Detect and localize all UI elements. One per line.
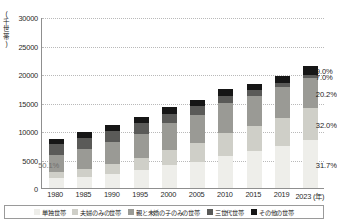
segment-percentage-label: 50.1% <box>38 161 59 170</box>
bar-segment[interactable] <box>218 156 233 188</box>
legend-item[interactable]: 親と未婚の子のみの世帯 <box>128 208 200 217</box>
bar-group[interactable] <box>218 89 233 188</box>
bar-segment[interactable] <box>77 177 92 188</box>
bar-segment[interactable] <box>275 118 290 146</box>
legend-label: 夫婦のみの世帯 <box>80 208 121 217</box>
bar-segment[interactable] <box>275 146 290 188</box>
bar-series-container <box>42 18 324 188</box>
bar-segment[interactable] <box>134 158 149 170</box>
x-axis-tick-label: 1990 <box>104 190 120 199</box>
bar-group[interactable] <box>134 117 149 188</box>
y-axis-tick-label: 25000 <box>18 42 38 51</box>
y-axis-tick-label: 0 <box>34 185 38 194</box>
bar-segment[interactable] <box>77 149 92 169</box>
bar-group[interactable] <box>105 125 120 188</box>
bar-segment[interactable] <box>218 96 233 103</box>
y-axis-tick-label: 30000 <box>18 14 38 23</box>
legend-item[interactable]: その他の世帯 <box>251 208 294 217</box>
legend-swatch <box>251 209 257 215</box>
y-axis-tick-label: 15000 <box>18 99 38 108</box>
bar-group[interactable] <box>247 84 262 188</box>
bar-segment[interactable] <box>218 103 233 133</box>
legend-item[interactable]: 夫婦のみの世帯 <box>72 208 121 217</box>
bar-segment[interactable] <box>218 89 233 96</box>
bar-segment[interactable] <box>247 96 262 126</box>
x-axis-tick-label: 2015 <box>245 190 261 199</box>
legend-label: 単独世帯 <box>42 208 65 217</box>
y-axis-tick-labels: 050001000015000200002500030000 <box>0 0 41 221</box>
bar-segment[interactable] <box>247 126 262 151</box>
bar-segment[interactable] <box>218 133 233 155</box>
legend-item[interactable]: 三世代世帯 <box>207 208 244 217</box>
segment-percentage-label: 20.2% <box>316 90 337 99</box>
x-axis-tick-label: 2005 <box>189 190 205 199</box>
legend-swatch <box>34 209 40 215</box>
legend-label: その他の世帯 <box>259 208 294 217</box>
segment-percentage-label: 9.0% <box>316 67 333 76</box>
bar-segment[interactable] <box>275 76 290 83</box>
bar-segment[interactable] <box>162 165 177 188</box>
x-axis-tick-label: 2000 <box>161 190 177 199</box>
legend-swatch <box>72 209 78 215</box>
legend-swatch <box>128 209 134 215</box>
bar-group[interactable] <box>275 76 290 188</box>
bar-segment[interactable] <box>190 162 205 188</box>
legend-item[interactable]: 単独世帯 <box>34 208 65 217</box>
bar-segment[interactable] <box>190 100 205 107</box>
bar-segment[interactable] <box>162 123 177 150</box>
bar-segment[interactable] <box>247 84 262 91</box>
bar-segment[interactable] <box>275 87 290 118</box>
bar-segment[interactable] <box>190 143 205 161</box>
legend-swatch <box>207 209 213 215</box>
x-axis-tick-label: 2010 <box>217 190 233 199</box>
segment-percentage-label: 32.0% <box>316 121 337 130</box>
chart-legend: 単独世帯夫婦のみの世帯親と未婚の子のみの世帯三世代世帯その他の世帯 <box>4 205 324 219</box>
bar-segment[interactable] <box>77 169 92 177</box>
bar-segment[interactable] <box>77 138 92 149</box>
bar-segment[interactable] <box>49 178 64 188</box>
x-axis-tick-labels: 1980198519901995200020052010201520192023… <box>41 190 328 202</box>
bar-segment[interactable] <box>190 106 205 114</box>
bar-segment[interactable] <box>134 170 149 188</box>
x-axis-tick-label: 1995 <box>132 190 148 199</box>
bar-segment[interactable] <box>162 150 177 165</box>
bar-segment[interactable] <box>105 142 120 164</box>
bar-segment[interactable] <box>134 123 149 134</box>
bar-group[interactable] <box>190 100 205 188</box>
x-axis-tick-label: 2019 <box>274 190 290 199</box>
x-axis-line <box>41 188 324 189</box>
bar-segment[interactable] <box>190 115 205 144</box>
bar-segment[interactable] <box>162 114 177 124</box>
bar-segment[interactable] <box>247 151 262 188</box>
x-axis-tick-label: 2023 (年) <box>295 190 324 201</box>
bar-segment[interactable] <box>134 134 149 158</box>
segment-percentage-label: 31.7% <box>316 161 337 170</box>
bar-group[interactable] <box>162 107 177 188</box>
x-axis-tick-label: 1980 <box>47 190 63 199</box>
legend-label: 親と未婚の子のみの世帯 <box>136 208 200 217</box>
y-axis-tick-label: 5000 <box>22 156 38 165</box>
bar-segment[interactable] <box>49 144 64 155</box>
bar-group[interactable] <box>77 132 92 188</box>
bar-segment[interactable] <box>105 174 120 188</box>
plot-area: 50.1%31.7%32.0%20.2%7.0%9.0% <box>41 18 324 189</box>
bar-segment[interactable] <box>105 131 120 143</box>
bar-segment[interactable] <box>105 164 120 174</box>
x-axis-tick-label: 1985 <box>76 190 92 199</box>
y-axis-tick-label: 20000 <box>18 71 38 80</box>
legend-label: 三世代世帯 <box>215 208 244 217</box>
y-axis-tick-label: 10000 <box>18 128 38 137</box>
